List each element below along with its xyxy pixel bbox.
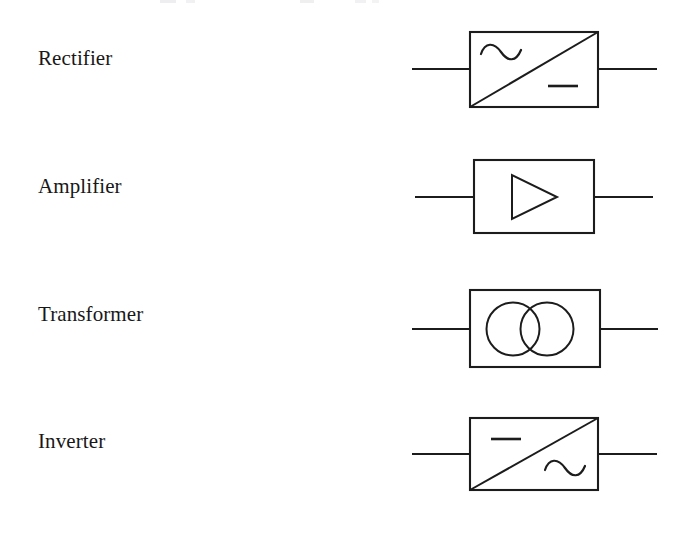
diagonal-divider [470,32,598,107]
diagram-row-inverter: Inverter [0,384,688,512]
diagram-row-amplifier: Amplifier [0,128,688,256]
diagram-row-transformer: Transformer [0,256,688,384]
amplifier-box [474,160,594,233]
primary-winding-circle-icon [487,303,540,356]
ac-sine-icon [545,461,585,476]
secondary-winding-circle-icon [521,303,574,356]
symbol-transformer [400,282,670,382]
symbol-inverter [400,408,670,513]
ac-sine-icon [481,45,521,60]
symbol-rectifier [400,20,670,128]
label-transformer: Transformer [38,304,143,325]
label-inverter: Inverter [38,431,105,452]
diagram-row-rectifier: Rectifier [0,0,688,128]
label-rectifier: Rectifier [38,48,112,69]
amplifier-triangle-icon [512,175,557,219]
diagram-sheet: Rectifier Amplifier [0,0,688,533]
diagonal-divider [470,418,598,490]
symbol-amplifier [400,150,670,250]
label-amplifier: Amplifier [38,176,122,197]
transformer-box [470,290,600,367]
